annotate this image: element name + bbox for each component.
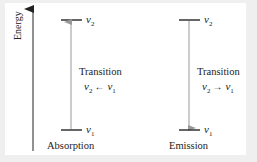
energy-axis-label: Energy: [12, 11, 23, 40]
transition-label: v2←v1: [84, 80, 116, 95]
transition-title: Transition: [197, 66, 241, 77]
lower-level-label: v1: [86, 123, 95, 138]
lower-level-label: v1: [204, 123, 213, 138]
upper-level-label: v2: [86, 13, 95, 28]
upper-level-label: v2: [204, 13, 213, 28]
energy-axis: Energy: [12, 9, 33, 151]
absorption-caption: Absorption: [47, 140, 95, 151]
emission-caption: Emission: [169, 140, 209, 151]
transition-title: Transition: [79, 66, 123, 77]
absorption-panel: v2 v1 Transition v2←v1 Absorption: [47, 13, 123, 151]
emission-panel: v2 v1 Transition v2→v1 Emission: [169, 13, 241, 151]
energy-level-diagram: Energy v2 v1 Transition v2←v1 Absorption…: [0, 0, 257, 162]
transition-label: v2→v1: [202, 80, 234, 95]
